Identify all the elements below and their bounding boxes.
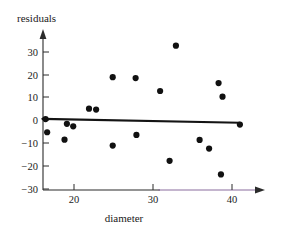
data-point <box>219 94 225 100</box>
x-axis-label: diameter <box>105 212 144 224</box>
data-point <box>86 106 92 112</box>
x-tick-label-40: 40 <box>227 194 238 205</box>
residual-plot: residuals diameter 30 20 10 0 −10 −20 <box>0 0 283 233</box>
x-tick-label-30: 30 <box>148 194 159 205</box>
data-point <box>110 143 116 149</box>
y-tick-label-neg30: −30 <box>22 184 38 195</box>
data-point <box>110 74 116 80</box>
y-tick-label-30: 30 <box>28 47 39 58</box>
data-point <box>42 116 48 122</box>
residual-plot-svg: residuals diameter 30 20 10 0 −10 −20 <box>0 0 283 233</box>
y-tick-label-20: 20 <box>28 70 39 81</box>
y-axis-arrow-icon <box>40 29 47 39</box>
data-point <box>197 137 203 143</box>
data-point <box>166 158 172 164</box>
scatter-points-layer <box>42 43 243 178</box>
data-point <box>133 75 139 81</box>
regression-line <box>42 119 240 123</box>
x-axis-arrow-icon <box>255 187 265 194</box>
x-tick-label-20: 20 <box>69 194 80 205</box>
x-tick-group: 20 30 40 <box>69 184 238 205</box>
y-tick-label-neg10: −10 <box>22 138 38 149</box>
data-point <box>215 80 221 86</box>
y-axis-label: residuals <box>17 12 56 24</box>
data-point <box>237 121 243 127</box>
data-point <box>218 171 224 177</box>
data-point <box>173 43 179 49</box>
data-point <box>61 137 67 143</box>
data-point <box>70 123 76 129</box>
y-tick-label-10: 10 <box>28 92 39 103</box>
data-point <box>44 129 50 135</box>
y-tick-label-0: 0 <box>33 115 38 126</box>
data-point <box>64 121 70 127</box>
data-point <box>206 145 212 151</box>
data-point <box>157 88 163 94</box>
data-point <box>133 132 139 138</box>
y-tick-label-neg20: −20 <box>22 161 38 172</box>
data-point <box>93 106 99 112</box>
